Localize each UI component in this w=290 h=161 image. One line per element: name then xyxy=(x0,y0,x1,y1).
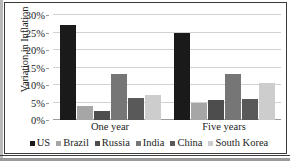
y-axis-tick-label: 15% xyxy=(26,62,45,73)
page-left-edge xyxy=(0,0,3,161)
bar-brazil[interactable] xyxy=(191,103,207,121)
y-axis-tick-mark xyxy=(46,33,49,34)
legend-item-south-korea[interactable]: South Korea xyxy=(208,138,268,149)
y-axis-tick-mark xyxy=(46,120,49,121)
legend-label: India xyxy=(143,138,165,149)
legend-label: Russia xyxy=(102,138,130,149)
x-axis-category-label: One year xyxy=(53,121,167,132)
y-axis-tick-mark xyxy=(46,68,49,69)
y-axis-tick-label: 0% xyxy=(31,115,45,126)
bar-russia[interactable] xyxy=(94,111,110,120)
bar-us[interactable] xyxy=(174,33,190,121)
page-bottom-edge xyxy=(0,158,290,161)
legend-label: China xyxy=(177,138,202,149)
page-bottom-rule xyxy=(0,155,290,156)
legend-item-us[interactable]: US xyxy=(30,138,50,149)
bar-groups xyxy=(53,15,281,120)
bar-group xyxy=(167,15,281,120)
y-axis-tick-mark xyxy=(46,50,49,51)
y-axis-tick-label: 30% xyxy=(26,10,45,21)
bar-us[interactable] xyxy=(60,25,76,120)
legend-swatch-icon xyxy=(136,141,141,146)
bar-india[interactable] xyxy=(225,74,241,120)
chart-frame: Variation in Inflation 0%5%10%15%20%25%3… xyxy=(4,2,287,154)
bar-india[interactable] xyxy=(111,74,127,120)
y-axis-tick-label: 20% xyxy=(26,45,45,56)
y-axis-tick-label: 5% xyxy=(31,97,45,108)
legend-swatch-icon xyxy=(56,141,61,146)
legend-label: Brazil xyxy=(63,138,89,149)
y-axis-tick-label: 10% xyxy=(26,80,45,91)
bar-brazil[interactable] xyxy=(77,106,93,120)
chart-legend: USBrazilRussiaIndiaChinaSouth Korea xyxy=(13,138,285,149)
legend-swatch-icon xyxy=(208,141,213,146)
y-axis-tick-label: 25% xyxy=(26,27,45,38)
legend-swatch-icon xyxy=(95,141,100,146)
y-axis-tick-labels: 0%5%10%15%20%25%30% xyxy=(5,15,49,120)
legend-item-china[interactable]: China xyxy=(170,138,202,149)
bar-china[interactable] xyxy=(128,98,144,120)
legend-label: South Korea xyxy=(215,138,268,149)
x-axis-category-labels: One yearFive years xyxy=(53,121,281,132)
bar-group xyxy=(53,15,167,120)
y-axis-tick-mark xyxy=(46,85,49,86)
x-axis-category-label: Five years xyxy=(167,121,281,132)
legend-item-brazil[interactable]: Brazil xyxy=(56,138,89,149)
chart-page: Variation in Inflation 0%5%10%15%20%25%3… xyxy=(0,0,290,161)
bar-russia[interactable] xyxy=(208,100,224,120)
legend-item-russia[interactable]: Russia xyxy=(95,138,130,149)
legend-swatch-icon xyxy=(170,141,175,146)
plot-area xyxy=(53,15,281,120)
bar-china[interactable] xyxy=(242,99,258,120)
y-axis-tick-mark xyxy=(46,103,49,104)
legend-label: US xyxy=(37,138,50,149)
legend-swatch-icon xyxy=(30,141,35,146)
legend-item-india[interactable]: India xyxy=(136,138,165,149)
y-axis-tick-mark xyxy=(46,15,49,16)
bar-south-korea[interactable] xyxy=(259,83,275,120)
bar-south-korea[interactable] xyxy=(145,95,161,120)
